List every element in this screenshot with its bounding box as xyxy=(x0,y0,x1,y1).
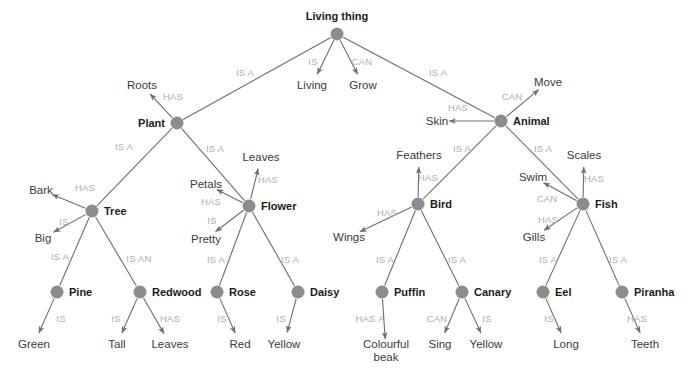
attribute-attr-big: Big xyxy=(35,232,52,245)
edge-flower-to-rose xyxy=(219,213,246,286)
edge-label-e-rose-red: IS xyxy=(217,313,226,324)
attribute-attr-yellow-canary: Yellow xyxy=(470,338,503,351)
node-daisy[interactable] xyxy=(292,286,305,299)
edge-label-e-lt-living: IS xyxy=(308,56,317,67)
node-redwood[interactable] xyxy=(134,286,147,299)
attribute-attr-long: Long xyxy=(553,338,579,351)
attribute-attr-pretty: Pretty xyxy=(191,233,221,246)
attribute-attr-red: Red xyxy=(229,338,250,351)
node-label-daisy: Daisy xyxy=(310,286,339,298)
edge-label-e-flower-pretty: IS xyxy=(207,215,216,226)
attribute-attr-feathers: Feathers xyxy=(396,149,441,162)
edge-label-e-tree-big: IS xyxy=(59,216,68,227)
node-label-rose: Rose xyxy=(229,286,256,298)
semantic-network-diagram: IS AIS AISCANHASIS AIS AHASCANIS AIS AHA… xyxy=(0,0,696,375)
node-label-fish: Fish xyxy=(595,198,618,210)
edge-label-e-piranha-teeth: HAS xyxy=(627,313,647,324)
attribute-attr-leaves-redwood: Leaves xyxy=(151,338,188,351)
node-puffin[interactable] xyxy=(376,286,389,299)
edge-label-e-plant-roots: HAS xyxy=(163,91,183,102)
node-fish[interactable] xyxy=(577,198,590,211)
edge-label-e-animal-move: CAN xyxy=(502,91,523,102)
edge-label-e-flower-daisy: IS A xyxy=(281,254,299,265)
edge-label-e-plant-tree: IS A xyxy=(115,141,133,152)
node-animal[interactable] xyxy=(495,115,508,128)
attribute-attr-tall: Tall xyxy=(108,338,125,351)
edge-daisy-to-attr-yellow-daisy xyxy=(287,299,296,333)
edge-label-e-lt-grow: CAN xyxy=(352,56,373,67)
edge-label-e-plant-flower: IS A xyxy=(206,143,224,154)
edge-label-e-canary-yellow: IS xyxy=(482,313,491,324)
node-eel[interactable] xyxy=(537,286,550,299)
node-label-bird: Bird xyxy=(430,198,452,210)
network-canvas xyxy=(0,0,696,375)
edge-label-e-redwood-leaves: HAS xyxy=(160,313,180,324)
attribute-attr-green: Green xyxy=(18,338,50,351)
node-rose[interactable] xyxy=(211,286,224,299)
attribute-attr-colourful-beak: Colourfulbeak xyxy=(363,338,409,364)
node-label-pine: Pine xyxy=(69,286,92,298)
edge-label-e-flower-rose: IS A xyxy=(207,254,225,265)
edge-label-e-tree-pine: IS A xyxy=(51,251,69,262)
edge-label-e-bird-canary: IS A xyxy=(448,254,466,265)
edge-label-e-redwood-tall: IS xyxy=(111,313,120,324)
attribute-attr-gills: Gills xyxy=(523,231,545,244)
edge-animal-to-bird xyxy=(423,126,496,199)
edge-label-e-eel-long: IS xyxy=(544,313,553,324)
node-living-thing[interactable] xyxy=(331,28,344,41)
node-tree[interactable] xyxy=(86,205,99,218)
node-label-puffin: Puffin xyxy=(394,286,425,298)
node-label-plant: Plant xyxy=(0,117,165,129)
edge-tree-to-attr-bark xyxy=(52,195,85,209)
edge-living-thing-to-attr-living xyxy=(317,40,334,74)
edge-bird-to-canary xyxy=(421,210,459,285)
attribute-attr-petals: Petals xyxy=(190,178,222,191)
node-canary[interactable] xyxy=(456,286,469,299)
edge-living-thing-to-animal xyxy=(343,37,495,117)
edge-label-e-canary-sing: CAN xyxy=(427,313,448,324)
edge-label-e-puffin-beak: HAS A xyxy=(356,313,385,324)
edge-animal-to-fish xyxy=(506,126,578,199)
attribute-attr-scales: Scales xyxy=(567,149,602,162)
edge-plant-to-tree xyxy=(97,128,172,206)
node-plant[interactable] xyxy=(171,117,184,130)
node-bird[interactable] xyxy=(412,198,425,211)
attribute-attr-wings: Wings xyxy=(333,231,365,244)
attribute-attr-living: Living xyxy=(297,79,327,92)
edge-label-e-animal-bird: IS A xyxy=(453,143,471,154)
edge-label-e-bird-feathers: HAS xyxy=(418,172,438,183)
edge-pine-to-attr-green xyxy=(39,298,54,333)
edge-label-e-animal-skin: HAS xyxy=(448,102,468,113)
node-flower[interactable] xyxy=(243,200,256,213)
edge-redwood-to-attr-tall xyxy=(122,298,137,333)
edge-label-e-fish-swim: CAN xyxy=(537,193,558,204)
attribute-attr-sing: Sing xyxy=(428,338,451,351)
edge-label-e-lt-plant: IS A xyxy=(236,67,254,78)
attribute-attr-yellow-daisy: Yellow xyxy=(268,338,301,351)
edge-label-e-flower-leaves: HAS xyxy=(258,174,278,185)
node-label-tree: Tree xyxy=(104,205,127,217)
edge-tree-to-redwood xyxy=(96,217,137,286)
node-label-piranha: Piranha xyxy=(634,286,674,298)
edge-label-e-pine-green: IS xyxy=(56,313,65,324)
node-piranha[interactable] xyxy=(616,286,629,299)
edge-label-e-fish-gills: HAS xyxy=(538,214,558,225)
attribute-attr-grow: Grow xyxy=(349,79,376,92)
edge-label-e-tree-bark: HAS xyxy=(75,182,95,193)
node-label-flower: Flower xyxy=(261,200,296,212)
attribute-attr-teeth: Teeth xyxy=(631,338,659,351)
edge-flower-to-attr-pretty xyxy=(216,210,244,231)
node-pine[interactable] xyxy=(51,286,64,299)
edge-label-e-animal-fish: IS A xyxy=(534,143,552,154)
edge-fish-to-piranha xyxy=(586,210,619,285)
edge-label-e-fish-piranha: IS A xyxy=(609,254,627,265)
edge-label-e-daisy-yellow: IS xyxy=(276,313,285,324)
edge-label-e-flower-petals: HAS xyxy=(201,196,221,207)
edge-label-e-tree-redwood: IS AN xyxy=(126,253,151,264)
node-label-animal: Animal xyxy=(513,115,550,127)
node-label-living-thing: Living thing xyxy=(306,10,368,22)
attribute-attr-swim: Swim xyxy=(519,171,547,184)
edge-bird-to-puffin xyxy=(385,210,416,285)
edge-label-e-lt-animal: IS A xyxy=(429,67,447,78)
node-label-redwood: Redwood xyxy=(152,286,202,298)
